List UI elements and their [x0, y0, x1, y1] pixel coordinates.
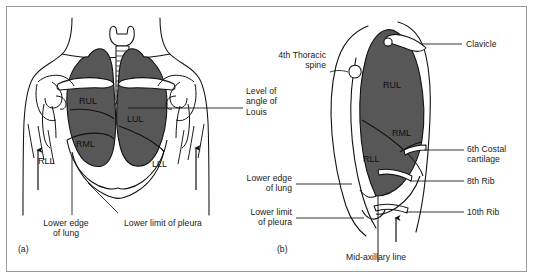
panel-tag-b: (b) [277, 244, 288, 254]
anatomy-figure: RUL LUL RML RLL LLL [0, 0, 534, 280]
label-rul-lateral: RUL [383, 80, 401, 90]
label-angle-of-louis: Level of angle of Louis [246, 86, 277, 117]
label-rll-lateral: RLL [363, 154, 380, 164]
label-lll-anterior: LLL [152, 159, 167, 169]
label-4th-thoracic-spine: 4th Thoracic spine [226, 50, 326, 71]
label-6th-costal-cartilage: 6th Costal cartilage [467, 144, 506, 165]
label-10th-rib: 10th Rib [467, 207, 499, 217]
leader-thoracic-spine [330, 71, 348, 73]
panel-tag-a: (a) [18, 244, 29, 254]
label-8th-rib: 8th Rib [467, 176, 495, 186]
left-lung-anterior [117, 49, 167, 166]
label-rml-lateral: RML [392, 128, 411, 138]
clavicle-head [384, 38, 392, 46]
label-lul-anterior: LUL [127, 114, 144, 124]
label-rul-anterior: RUL [79, 96, 97, 106]
label-rml-anterior: RML [76, 139, 95, 149]
thoracic-spine-marker [349, 65, 361, 78]
label-mid-axillary-line: Mid-axillary line [346, 252, 406, 262]
label-clavicle: Clavicle [466, 39, 497, 49]
label-lower-edge-of-lung-b: Lower edge of lung [190, 173, 292, 194]
label-rll-anterior: RLL [38, 156, 55, 166]
rib-10 [374, 204, 408, 213]
label-lower-edge-of-lung-a: Lower edge of lung [14, 218, 118, 239]
label-lower-limit-of-pleura-b: Lower limit of pleura [190, 207, 292, 228]
breathing-arrows [38, 148, 196, 190]
